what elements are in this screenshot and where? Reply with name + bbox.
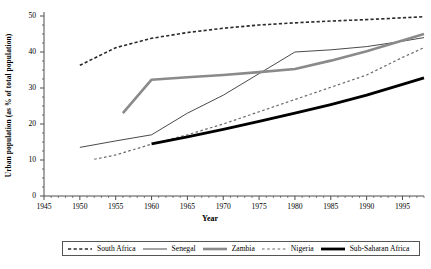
y-tick-label: 40 — [16, 47, 36, 56]
x-tick-label: 1945 — [29, 202, 59, 211]
x-tick-label: 1950 — [65, 202, 95, 211]
legend-item[interactable]: Sub-Saharan Africa — [320, 244, 416, 253]
x-tick-label: 1970 — [208, 202, 238, 211]
legend-label: Senegal — [172, 244, 202, 253]
x-tick-label: 1975 — [244, 202, 274, 211]
chart-legend: South AfricaSenegalZambiaNigeriaSub-Saha… — [62, 241, 420, 256]
series-line-zambia — [123, 34, 424, 113]
legend-swatch-south-africa — [67, 245, 93, 253]
legend-item[interactable]: Zambia — [202, 244, 261, 253]
x-tick-label: 1955 — [101, 202, 131, 211]
x-axis-title: Year — [202, 214, 218, 223]
y-tick-label: 30 — [16, 83, 36, 92]
legend-swatch-nigeria — [261, 245, 287, 253]
legend-item[interactable]: Senegal — [142, 244, 202, 253]
legend-label: Nigeria — [291, 244, 320, 253]
legend-label: South Africa — [97, 244, 142, 253]
legend-item[interactable]: South Africa — [67, 244, 142, 253]
legend-swatch-senegal — [142, 245, 168, 253]
x-tick-label: 1995 — [387, 202, 417, 211]
legend-swatch-sub-saharan-africa — [320, 245, 346, 253]
y-tick-label: 20 — [16, 119, 36, 128]
series-line-south-africa — [80, 17, 424, 66]
x-tick-label: 1980 — [280, 202, 310, 211]
series-line-nigeria — [94, 48, 424, 160]
legend-swatch-zambia — [202, 245, 228, 253]
y-tick-label: 10 — [16, 155, 36, 164]
legend-label: Zambia — [232, 244, 261, 253]
x-tick-label: 1990 — [352, 202, 382, 211]
legend-item[interactable]: Nigeria — [261, 244, 320, 253]
x-tick-label: 1960 — [137, 202, 167, 211]
y-tick-label: 50 — [16, 11, 36, 20]
y-tick-label: 0 — [16, 191, 36, 200]
legend-label: Sub-Saharan Africa — [350, 244, 416, 253]
chart-container: Urban population (as % of total populati… — [0, 0, 431, 269]
plot-area — [0, 0, 431, 269]
x-tick-label: 1985 — [316, 202, 346, 211]
x-tick-label: 1965 — [172, 202, 202, 211]
